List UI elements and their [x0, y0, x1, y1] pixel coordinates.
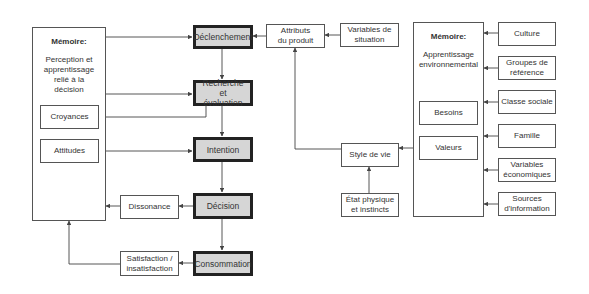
factor-famille: Famille [498, 124, 556, 148]
style-de-vie-box: Style de vie [341, 143, 399, 167]
besoins-box: Besoins [419, 101, 478, 125]
valeurs-box: Valeurs [419, 136, 478, 160]
factor-classe-sociale: Classe sociale [498, 90, 556, 114]
factor-culture: Culture [498, 22, 556, 46]
etat-physique-box: État physique et instincts [341, 193, 399, 217]
satisfaction-box: Satisfaction / insatisfaction [120, 251, 179, 276]
memory-subtitle: Perception et apprentissage relié à la d… [33, 55, 105, 95]
memory-env-title: Mémoire: [414, 32, 483, 42]
croyances-box: Croyances [40, 105, 99, 129]
attributs-produit-box: Attributs du produit [266, 24, 325, 48]
factor-groupes-reference: Groupes de référence [498, 56, 556, 80]
memory-title: Mémoire: [33, 37, 105, 47]
stage-decision: Décision [193, 193, 253, 219]
stage-recherche-evaluation: Recherche et évaluation [193, 80, 253, 106]
variables-situation-box: Variables de situation [340, 23, 399, 47]
dissonance-box: Dissonance [120, 195, 179, 219]
stage-consommation: Consommation [193, 251, 253, 276]
memory-env-subtitle: Apprentissage environnemental [414, 50, 483, 70]
attitudes-box: Attitudes [40, 139, 99, 163]
factor-variables-economiques: Variables économiques [498, 158, 556, 182]
factor-sources-information: Sources d'information [498, 192, 556, 216]
stage-declenchement: Déclenchement [193, 25, 253, 49]
stage-intention: Intention [193, 137, 253, 162]
